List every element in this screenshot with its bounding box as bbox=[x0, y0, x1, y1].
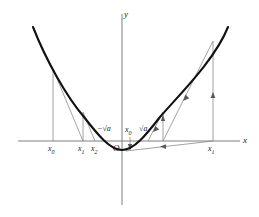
construction-lines-group bbox=[53, 41, 213, 150]
label-left-x2-subscript: 2 bbox=[95, 149, 98, 155]
label-left-x0: x0 bbox=[48, 145, 55, 155]
tangent-lines-group bbox=[53, 41, 213, 151]
label-left-x1: x1 bbox=[78, 145, 85, 155]
label-left-x0-subscript: 0 bbox=[52, 149, 55, 155]
label-positive-root: √a bbox=[139, 125, 147, 133]
arrow-tangent-right-x1 bbox=[183, 95, 189, 101]
label-left-x2: x2 bbox=[91, 145, 98, 155]
figure-canvas: y x O x0 x1 x2 −√a x0 √a x1 bbox=[0, 0, 259, 217]
newton-method-diagram bbox=[0, 0, 259, 217]
arrow-up-right-x1 bbox=[211, 92, 216, 98]
label-center-x0-subscript: 0 bbox=[129, 130, 132, 136]
origin-label: O bbox=[113, 144, 120, 153]
arrow-secant-left bbox=[160, 144, 166, 149]
label-left-x1-subscript: 1 bbox=[82, 149, 85, 155]
label-negative-root: −√a bbox=[97, 125, 111, 133]
label-right-x1: x1 bbox=[208, 145, 215, 155]
axis-label-x: x bbox=[243, 136, 247, 145]
axes-group bbox=[18, 14, 240, 205]
tangent-right-x1 bbox=[163, 41, 213, 141]
label-right-x1-subscript: 1 bbox=[212, 149, 215, 155]
axis-label-y: y bbox=[124, 10, 128, 19]
label-center-x0: x0 bbox=[125, 126, 132, 136]
